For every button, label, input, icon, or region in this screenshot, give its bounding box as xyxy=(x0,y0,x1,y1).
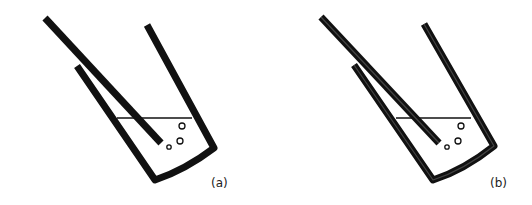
glass-b xyxy=(354,24,494,180)
figure-canvas xyxy=(0,0,532,205)
panel-a xyxy=(45,18,214,180)
bubble-icon xyxy=(458,123,464,129)
panel-label-b: (b) xyxy=(490,176,507,190)
panel-b xyxy=(321,17,494,180)
bubble-icon xyxy=(445,145,449,149)
bubble-icon xyxy=(177,138,183,144)
stick-a xyxy=(45,18,161,143)
bubble-icon xyxy=(455,138,461,144)
glass-a xyxy=(77,25,214,180)
bubble-icon xyxy=(167,145,171,149)
panel-label-a: (a) xyxy=(211,176,228,190)
bubble-icon xyxy=(179,123,185,129)
